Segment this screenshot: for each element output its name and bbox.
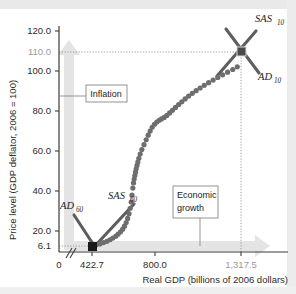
data-point [225, 70, 230, 75]
data-point [235, 64, 240, 69]
data-point [130, 185, 135, 190]
label-sas-2010-text: SAS [255, 13, 273, 24]
inflation-callout-text: Inflation [90, 89, 122, 99]
label-ad-1960-text: AD [59, 200, 74, 211]
y-tick-label-100: 100.0 [27, 65, 51, 76]
y-tick-label-110: 110.0 [28, 46, 51, 57]
data-point [220, 72, 225, 77]
data-point-series [89, 47, 243, 248]
x-tick-label-0: 0 [56, 259, 61, 270]
y-axis-title: Price level (GDP deflator, 2006 = 100) [7, 80, 18, 240]
x-tick-label-800: 800.0 [143, 259, 167, 270]
data-point [215, 75, 220, 80]
data-point [139, 147, 144, 152]
x-axis-ticks [92, 252, 241, 256]
data-point [144, 137, 149, 142]
x-tick-label-1317-5: 1,317.5 [225, 259, 257, 270]
data-point [126, 211, 131, 216]
label-sas-2010: SAS 10 [255, 13, 285, 27]
data-point [211, 77, 216, 82]
data-point [128, 206, 133, 211]
equilibrium-marker-1960 [88, 242, 97, 251]
data-point [230, 67, 235, 72]
chart-figure: 120.0 110.0 100.0 80.0 60.0 40.0 20.0 6.… [0, 0, 296, 294]
y-tick-label-6-1: 6.1 [38, 240, 51, 251]
data-point [202, 83, 207, 88]
y-tick-label-20: 20.0 [33, 225, 52, 236]
x-axis-title: Real GDP (billions of 2006 dollars) [142, 274, 288, 285]
growth-callout-line1: Economic [177, 190, 217, 200]
data-point [138, 151, 143, 156]
data-point [206, 80, 211, 85]
label-ad-1960-subscript: 60 [76, 206, 84, 214]
label-ad-2010-text: AD [257, 71, 272, 82]
y-tick-label-60: 60.0 [33, 145, 52, 156]
chart-plot-area: 120.0 110.0 100.0 80.0 60.0 40.0 20.0 6.… [0, 0, 296, 294]
label-ad-2010: AD 10 [257, 71, 282, 85]
data-point [141, 142, 146, 147]
label-sas-1960-text: SAS [108, 190, 126, 201]
label-sas-2010-subscript: 10 [277, 19, 285, 27]
x-tick-label-422-7: 422.7 [80, 259, 104, 270]
label-sas-1960: SAS 60 [108, 190, 138, 204]
y-tick-label-120: 120.0 [27, 25, 51, 36]
label-ad-2010-subscript: 10 [274, 77, 282, 85]
equilibrium-marker-2010 [237, 47, 246, 56]
label-sas-1960-subscript: 60 [130, 196, 138, 204]
growth-callout-line2: growth [177, 203, 204, 213]
data-point [125, 216, 130, 221]
y-tick-label-80: 80.0 [33, 105, 52, 116]
y-tick-label-40: 40.0 [33, 185, 52, 196]
